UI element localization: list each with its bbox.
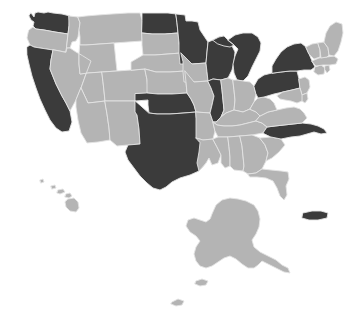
- state-minnesota[interactable]: [176, 14, 208, 64]
- us-map-container: [0, 0, 345, 315]
- states-layer: [27, 12, 343, 306]
- state-rhode-island[interactable]: [325, 65, 330, 73]
- state-connecticut[interactable]: [314, 65, 325, 75]
- state-nebraska[interactable]: [131, 53, 185, 72]
- us-choropleth-map: [0, 0, 345, 315]
- state-kansas[interactable]: [145, 69, 187, 94]
- state-alaska[interactable]: [171, 198, 290, 306]
- state-north-dakota[interactable]: [142, 13, 178, 34]
- state-south-dakota[interactable]: [142, 33, 181, 55]
- territory-puerto-rico[interactable]: [302, 211, 328, 220]
- state-montana[interactable]: [78, 13, 142, 45]
- state-florida[interactable]: [248, 169, 289, 200]
- state-delaware[interactable]: [302, 93, 308, 103]
- state-hawaii[interactable]: [40, 179, 79, 212]
